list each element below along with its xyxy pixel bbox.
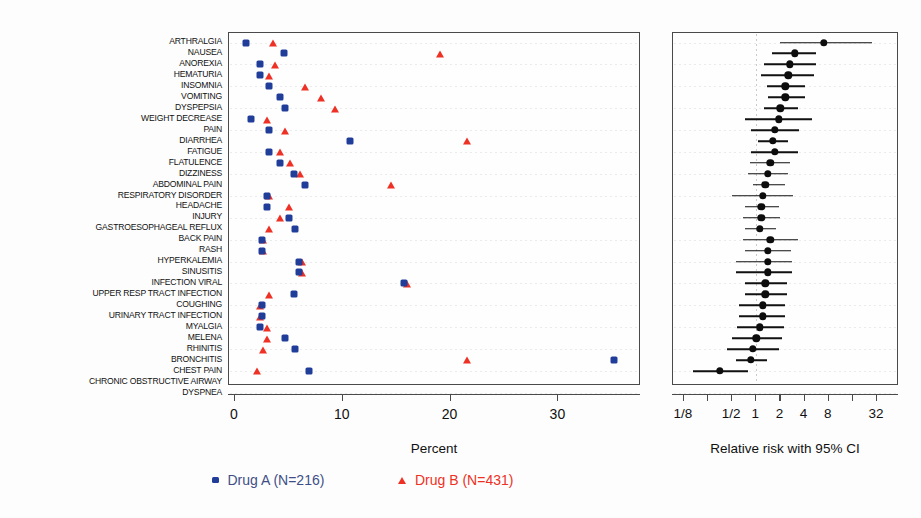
drug-a-data-point xyxy=(248,116,255,123)
grid-line xyxy=(230,152,638,153)
relative-risk-point xyxy=(764,269,771,276)
drug-b-data-point xyxy=(436,50,444,57)
axis-tick-label: 4 xyxy=(800,406,808,421)
relative-risk-point xyxy=(782,94,789,101)
grid-line xyxy=(674,218,896,219)
drug-a-data-point xyxy=(258,313,265,320)
grid-line xyxy=(674,327,896,328)
drug-a-data-point xyxy=(401,280,408,287)
relative-risk-point xyxy=(762,291,769,298)
legend-item-drug-b: Drug B (N=431) xyxy=(398,472,513,488)
forest-plot-area xyxy=(673,33,897,384)
drug-b-data-point xyxy=(253,368,261,375)
legend-label-drug-b: Drug B (N=431) xyxy=(415,472,513,488)
drug-b-data-point xyxy=(463,357,471,364)
drug-b-data-point xyxy=(276,215,284,222)
relative-risk-point xyxy=(758,214,765,221)
drug-a-data-point xyxy=(295,269,302,276)
drug-a-data-point xyxy=(285,214,292,221)
axis-tick xyxy=(707,394,708,401)
event-label: NAUSEA xyxy=(0,48,222,57)
relative-risk-point xyxy=(716,367,723,374)
drug-a-data-point xyxy=(256,324,263,331)
grid-line xyxy=(230,196,638,197)
drug-b-data-point xyxy=(463,138,471,145)
axis-tick xyxy=(755,394,756,401)
drug-a-data-point xyxy=(302,181,309,188)
grid-line xyxy=(230,86,638,87)
drug-b-data-point xyxy=(263,324,271,331)
relative-risk-point xyxy=(758,203,765,210)
axis-tick-label: 0 xyxy=(230,406,238,422)
legend-item-drug-a: Drug A (N=216) xyxy=(212,472,324,488)
drug-a-data-point xyxy=(281,335,288,342)
relative-risk-point xyxy=(767,159,774,166)
drug-a-data-point xyxy=(266,83,273,90)
axis-tick xyxy=(683,394,684,401)
relative-risk-point xyxy=(764,170,771,177)
drug-b-data-point xyxy=(276,149,284,156)
drug-a-data-point xyxy=(258,236,265,243)
event-label: ABDOMINAL PAIN xyxy=(0,180,222,189)
drug-b-data-point xyxy=(281,127,289,134)
event-label: URINARY TRACT INFECTION xyxy=(0,311,222,320)
event-label: RHINITIS xyxy=(0,344,222,353)
grid-line xyxy=(230,108,638,109)
event-label: HEMATURIA xyxy=(0,70,222,79)
relative-risk-point xyxy=(771,148,778,155)
relative-risk-point xyxy=(769,137,776,144)
event-label: SINUSITIS xyxy=(0,267,222,276)
relative-risk-point xyxy=(753,334,760,341)
axis-tick xyxy=(804,394,805,401)
event-label: DIZZINESS xyxy=(0,169,222,178)
event-label: VOMITING xyxy=(0,92,222,101)
relative-risk-point xyxy=(777,104,784,111)
drug-a-data-point xyxy=(295,258,302,265)
event-label: BRONCHITIS xyxy=(0,355,222,364)
relative-risk-point xyxy=(762,280,769,287)
drug-a-data-point xyxy=(264,192,271,199)
event-label: INFECTION VIRAL xyxy=(0,278,222,287)
event-label: ANOREXIA xyxy=(0,59,222,68)
confidence-interval-line xyxy=(753,184,786,186)
drug-a-data-point xyxy=(258,247,265,254)
drug-a-data-point xyxy=(258,302,265,309)
drug-b-data-point xyxy=(285,204,293,211)
axis-tick xyxy=(342,394,343,401)
axis-tick-label: 20 xyxy=(442,406,458,422)
axis-tick xyxy=(557,394,558,401)
drug-b-data-point xyxy=(263,335,271,342)
axis-tick-label: 2 xyxy=(776,406,784,421)
event-label: COUGHING xyxy=(0,300,222,309)
event-label: MELENA xyxy=(0,333,222,342)
relative-risk-point xyxy=(785,72,792,79)
axis-line xyxy=(672,394,898,395)
grid-line xyxy=(230,327,638,328)
grid-line xyxy=(230,371,638,372)
event-label: CHRONIC OBSTRUCTIVE AIRWAY xyxy=(0,377,222,386)
percent-plot-area xyxy=(229,33,639,384)
event-label: RESPIRATORY DISORDER xyxy=(0,191,222,200)
relative-risk-point xyxy=(791,50,798,57)
drug-a-data-point xyxy=(306,368,313,375)
relative-risk-point xyxy=(775,115,782,122)
drug-a-data-point xyxy=(281,105,288,112)
event-label: RASH xyxy=(0,245,222,254)
drug-a-data-point xyxy=(242,39,249,46)
drug-a-data-point xyxy=(277,94,284,101)
drug-a-data-point xyxy=(280,50,287,57)
grid-line xyxy=(230,283,638,284)
axis-tick-label: 32 xyxy=(868,406,883,421)
relative-risk-point xyxy=(759,192,766,199)
drug-a-data-point xyxy=(266,149,273,156)
axis-tick xyxy=(779,394,780,401)
adverse-events-figure: ARTHRALGIANAUSEAANOREXIAHEMATURIAINSOMNI… xyxy=(0,0,921,518)
legend: Drug A (N=216) Drug B (N=431) xyxy=(0,472,660,502)
percent-dot-plot-panel xyxy=(228,32,640,385)
percent-axis-title: Percent xyxy=(411,441,458,456)
relative-risk-point xyxy=(764,258,771,265)
axis-tick xyxy=(450,394,451,401)
event-label: DYSPNEA xyxy=(0,388,222,397)
relative-risk-point xyxy=(747,356,754,363)
drug-a-data-point xyxy=(291,170,298,177)
